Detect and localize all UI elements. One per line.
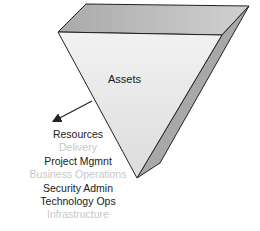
pyramid-title: Assets <box>108 73 141 85</box>
list-item-infrastructure: Infrastructure <box>0 208 156 221</box>
list-item-project-mgmnt: Project Mgmnt <box>0 155 156 168</box>
list-item-security-admin: Security Admin <box>0 182 156 195</box>
arrow-icon <box>54 101 92 121</box>
list-item-delivery: Delivery <box>0 141 156 154</box>
list-item-business-operations: Business Operations <box>0 168 156 181</box>
category-list: Resources Delivery Project Mgmnt Busines… <box>0 128 156 222</box>
pyramid-top-face <box>58 4 249 35</box>
list-item-resources: Resources <box>0 128 156 141</box>
list-item-technology-ops: Technology Ops <box>0 195 156 208</box>
